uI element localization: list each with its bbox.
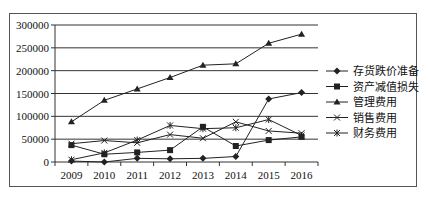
legend-item: 资产减值损失 bbox=[326, 80, 419, 94]
legend-item: 销售费用 bbox=[326, 111, 397, 125]
legend-label: 财务费用 bbox=[353, 126, 397, 140]
triangle-marker-icon bbox=[232, 60, 239, 66]
legend-item: 存货跌价准备 bbox=[326, 64, 419, 78]
diamond-marker-icon bbox=[134, 155, 141, 162]
x-tick-label: 2010 bbox=[93, 169, 116, 181]
y-tick-label: 300000 bbox=[16, 19, 50, 31]
triangle-marker-icon bbox=[68, 118, 75, 124]
x-tick-label: 2014 bbox=[225, 169, 248, 181]
square-marker-icon bbox=[266, 137, 272, 143]
square-marker-icon bbox=[167, 147, 173, 153]
square-marker-icon bbox=[68, 142, 74, 148]
x-tick-label: 2013 bbox=[192, 169, 215, 181]
legend-item: 财务费用 bbox=[326, 126, 397, 140]
legend-item: 管理费用 bbox=[326, 95, 397, 109]
x-tick-label: 2016 bbox=[291, 169, 314, 181]
diamond-marker-icon bbox=[232, 153, 239, 160]
legend-label: 资产减值损失 bbox=[353, 80, 419, 94]
diamond-marker-icon bbox=[101, 159, 108, 166]
y-tick-label: 250000 bbox=[16, 42, 50, 54]
square-marker-icon bbox=[134, 149, 140, 155]
x-marker-icon bbox=[233, 119, 239, 125]
square-marker-icon bbox=[334, 84, 340, 90]
y-axis: 050000100000150000200000250000300000 bbox=[16, 19, 55, 168]
series-lines bbox=[68, 31, 305, 166]
x-tick-label: 2012 bbox=[159, 169, 181, 181]
diamond-marker-icon bbox=[167, 155, 174, 162]
legend-label: 销售费用 bbox=[353, 111, 397, 125]
y-tick-label: 100000 bbox=[16, 110, 50, 122]
legend: 存货跌价准备资产减值损失管理费用销售费用财务费用 bbox=[326, 64, 419, 140]
x-tick-label: 2009 bbox=[60, 169, 83, 181]
y-tick-label: 0 bbox=[44, 156, 50, 168]
diamond-marker-icon bbox=[199, 155, 206, 162]
x-tick-label: 2015 bbox=[258, 169, 281, 181]
legend-label: 管理费用 bbox=[353, 95, 397, 109]
diamond-marker-icon bbox=[334, 68, 341, 75]
series-triangle bbox=[68, 31, 305, 125]
y-tick-label: 50000 bbox=[22, 133, 50, 145]
asterisk-marker-icon bbox=[266, 116, 272, 123]
x-tick-label: 2011 bbox=[126, 169, 148, 181]
line-chart: 050000100000150000200000250000300000 200… bbox=[0, 0, 428, 197]
y-tick-label: 150000 bbox=[16, 88, 50, 100]
diamond-marker-icon bbox=[298, 89, 305, 96]
y-tick-label: 200000 bbox=[16, 65, 50, 77]
x-axis: 20092010201120122013201420152016 bbox=[55, 162, 318, 181]
legend-label: 存货跌价准备 bbox=[353, 64, 419, 78]
square-marker-icon bbox=[233, 143, 239, 149]
diamond-marker-icon bbox=[265, 95, 272, 102]
triangle-marker-icon bbox=[298, 31, 305, 37]
